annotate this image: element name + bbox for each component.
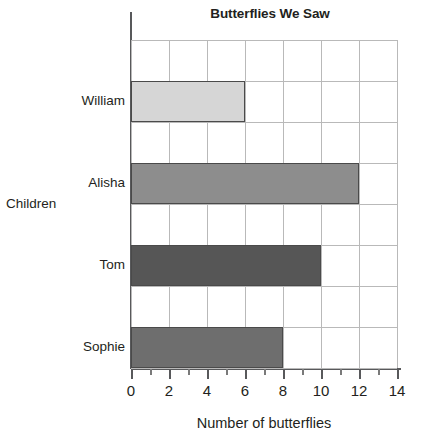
- x-axis-major-tick: [359, 369, 361, 379]
- y-axis-label-william: William: [5, 93, 125, 108]
- x-axis-title: Number of butterflies: [131, 415, 397, 431]
- horizontal-gridline: [131, 122, 397, 123]
- x-axis-tick-label: 8: [265, 382, 301, 399]
- chart-title: Butterflies We Saw: [140, 6, 400, 21]
- x-axis-minor-tick: [264, 369, 266, 375]
- x-axis-tick-label: 2: [151, 382, 187, 399]
- x-axis-major-tick: [321, 369, 323, 379]
- x-axis-major-tick: [131, 369, 133, 379]
- x-axis-major-tick: [169, 369, 171, 379]
- x-axis-minor-tick: [302, 369, 304, 375]
- y-axis-label-tom: Tom: [5, 257, 125, 272]
- y-axis-title: Children: [6, 196, 56, 211]
- horizontal-gridline: [131, 286, 397, 287]
- x-axis-minor-tick: [378, 369, 380, 375]
- plot-area: [131, 40, 397, 368]
- x-axis-major-tick: [397, 369, 399, 379]
- x-axis-minor-tick: [226, 369, 228, 375]
- x-axis-tick-label: 6: [227, 382, 263, 399]
- horizontal-gridline: [131, 204, 397, 205]
- x-axis-major-tick: [245, 369, 247, 379]
- bar-chart: Butterflies We Saw 02468101214 WilliamAl…: [0, 0, 429, 442]
- x-axis-major-tick: [283, 369, 285, 379]
- y-axis-category-labels: WilliamAlishaTomSophie: [0, 0, 125, 442]
- x-axis-tick-label: 10: [303, 382, 339, 399]
- bar-tom: [131, 245, 321, 286]
- y-axis-label-alisha: Alisha: [5, 175, 125, 190]
- x-axis-major-tick: [207, 369, 209, 379]
- bar-william: [131, 81, 245, 122]
- bar-sophie: [131, 327, 283, 368]
- y-axis-label-sophie: Sophie: [5, 339, 125, 354]
- vertical-gridline: [397, 40, 398, 368]
- x-axis-minor-tick: [340, 369, 342, 375]
- x-axis-tick-label: 4: [189, 382, 225, 399]
- horizontal-gridline: [131, 40, 397, 41]
- x-axis-minor-tick: [150, 369, 152, 375]
- x-axis-tick-label: 14: [379, 382, 415, 399]
- x-axis-minor-tick: [188, 369, 190, 375]
- bar-alisha: [131, 163, 359, 204]
- x-axis-tick-label: 12: [341, 382, 377, 399]
